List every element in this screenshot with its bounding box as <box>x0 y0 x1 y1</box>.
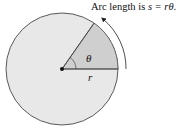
diagram-svg: θ r <box>0 0 179 132</box>
radius-label: r <box>88 71 93 83</box>
arc-length-diagram: Arc length is s = rθ. θ r <box>0 0 179 132</box>
center-point <box>60 67 64 71</box>
theta-label: θ <box>86 52 92 64</box>
